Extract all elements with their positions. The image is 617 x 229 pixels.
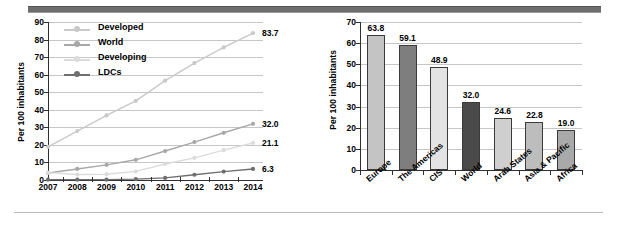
line-chart-y-tick-label: 30 [22,122,44,132]
line-data-point [163,149,167,153]
bar-value-label: 59.1 [399,33,416,43]
line-chart-end-label-world: 32.0 [262,119,279,129]
line-chart-x-tick-label: 2008 [68,182,87,192]
bar-chart-x-tick-mark [455,170,456,175]
bar-chart-x-tick-mark [582,170,583,175]
legend-label: Developed [98,22,144,32]
figure-canvas: Per 100 inhabitants 0102030405060708090 … [0,0,617,229]
bar-value-label: 63.8 [368,23,385,33]
bar-chart-y-tick-label: 70 [334,17,356,27]
bar-chart-y-tick-label: 40 [334,80,356,90]
line-data-point [46,145,50,149]
line-chart-y-tick-label: 50 [22,87,44,97]
line-chart-x-tick-label: 2007 [39,182,58,192]
line-data-point [134,169,138,173]
line-chart-x-tick-label: 2013 [214,182,233,192]
line-chart-end-label-developed: 83.7 [262,28,279,38]
line-chart-x-tick-mark [63,177,64,182]
line-chart-x-tick-label: 2010 [126,182,145,192]
line-chart-y-tick-label: 10 [22,157,44,167]
bar-value-label: 32.0 [463,90,480,100]
line-data-point [251,141,255,145]
line-chart-x-tick-mark [180,177,181,182]
legend-marker-icon [74,26,80,32]
legend-label: World [98,37,123,47]
line-chart-x-tick-label: 2014 [244,182,263,192]
line-chart-y-tick-label: 20 [22,140,44,150]
line-chart-x-tick-mark [151,177,152,182]
line-chart-end-label-developing: 21.1 [262,138,279,148]
line-chart-y-tick-label: 90 [22,17,44,27]
line-data-point [222,131,226,135]
line-data-point [192,61,196,65]
line-data-point [251,31,255,35]
legend-marker-icon [74,71,80,77]
line-data-point [192,173,196,177]
line-chart-x-tick-label: 2012 [185,182,204,192]
line-data-point [251,167,255,171]
bar-chart-x-tick-mark [423,170,424,175]
bar-chart-y-tick-label: 30 [334,102,356,112]
line-data-point [104,172,108,176]
bar-value-label: 19.0 [558,118,575,128]
bar-chart-y-tick-label: 0 [334,165,356,175]
bar-chart-x-tick-mark [550,170,551,175]
legend-marker-icon [74,56,80,62]
line-chart-x-tick-mark [209,177,210,182]
line-data-point [134,158,138,162]
line-chart-x-tick-label: 2009 [97,182,116,192]
bar-the-americas[interactable] [399,45,417,170]
line-chart-x-tick-mark [238,177,239,182]
line-data-point [75,129,79,133]
line-chart-x-tick-mark [92,177,93,182]
line-data-point [75,172,79,176]
line-data-point [192,140,196,144]
legend-label: Developing [98,52,147,62]
line-data-point [75,167,79,171]
legend-label: LDCs [98,67,122,77]
bar-chart-x-tick-mark [360,170,361,175]
line-data-point [46,171,50,175]
bar-chart-x-tick-mark [487,170,488,175]
line-data-point [251,122,255,126]
line-data-point [222,169,226,173]
line-chart-y-tick-label: 70 [22,52,44,62]
bar-value-label: 48.9 [431,55,448,65]
bar-chart: Per 100 inhabitants 010203040506070 63.8… [310,0,617,229]
line-data-point [163,79,167,83]
line-data-point [134,99,138,103]
bar-chart-x-tick-mark [519,170,520,175]
line-data-point [134,177,138,181]
line-chart-end-label-ldcs: 6.3 [262,164,274,174]
line-data-point [222,45,226,49]
line-chart-y-tick-label: 80 [22,35,44,45]
line-chart-y-tick-label: 60 [22,70,44,80]
line-data-point [222,148,226,152]
bar-value-label: 22.8 [526,110,543,120]
bar-chart-y-tick-label: 20 [334,123,356,133]
line-data-point [192,156,196,160]
line-data-point [104,113,108,117]
legend-marker-icon [74,41,80,47]
line-data-point [104,163,108,167]
bar-chart-y-tick-label: 10 [334,144,356,154]
line-data-point [163,176,167,180]
bar-chart-y-tick-label: 60 [334,38,356,48]
bar-value-label: 24.6 [494,106,511,116]
bar-europe[interactable] [367,35,385,170]
line-chart-x-tick-label: 2011 [156,182,174,192]
line-chart: Per 100 inhabitants 0102030405060708090 … [0,0,310,229]
line-chart-y-tick-label: 40 [22,105,44,115]
bar-chart-y-tick-label: 50 [334,59,356,69]
bar-chart-x-tick-mark [392,170,393,175]
line-data-point [163,162,167,166]
line-chart-x-tick-mark [121,177,122,182]
